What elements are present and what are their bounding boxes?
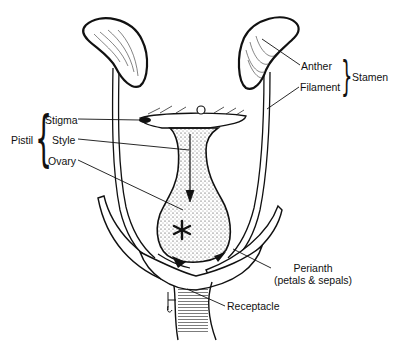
pistil-label: Pistil (11, 135, 33, 146)
filament-label: Filament (300, 82, 340, 93)
flower-diagram: Stigma Style Ovary { Pistil Anther Filam… (0, 0, 393, 342)
receptacle-label: Receptacle (227, 301, 280, 312)
pistil-brace: { (35, 108, 52, 168)
right-stamen (228, 17, 299, 262)
style-leader (78, 139, 189, 150)
flower-illustration (0, 0, 393, 342)
perianth-label: Perianth (273, 263, 353, 274)
ovary-label: Ovary (48, 156, 76, 167)
stamen-label: Stamen (352, 72, 388, 83)
anther-label: Anther (301, 61, 332, 72)
filament-leader (267, 87, 299, 109)
ovary-leader (78, 160, 183, 210)
stamen-brace: } (341, 56, 352, 96)
left-stamen (83, 18, 155, 262)
stigma-leader (78, 119, 140, 120)
style-label: Style (52, 135, 75, 146)
perianth-note: (petals & sepals) (257, 275, 369, 286)
pistil-body (139, 106, 246, 262)
